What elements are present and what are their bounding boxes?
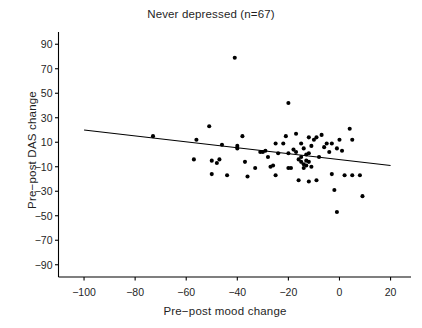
x-tick-label-2: −60 (177, 286, 195, 298)
y-tick-label-3: 30 (14, 112, 53, 124)
data-point (337, 138, 341, 142)
data-point (350, 138, 354, 142)
y-tick-label-5: −10 (14, 161, 53, 173)
data-point (263, 149, 267, 153)
y-tick-label-1: 70 (14, 63, 53, 75)
data-point (322, 145, 326, 149)
data-point (276, 151, 280, 155)
scatter-plot-figure: Never depressed (n=67) Pre−post DAS chan… (0, 0, 422, 328)
data-point (294, 132, 298, 136)
data-point (343, 173, 347, 177)
data-point (299, 141, 303, 145)
data-point (294, 150, 298, 154)
data-point (210, 159, 214, 163)
data-point (317, 155, 321, 159)
data-point (340, 149, 344, 153)
data-point (332, 188, 336, 192)
data-point (217, 157, 221, 161)
data-point (299, 155, 303, 159)
data-point (266, 155, 270, 159)
data-point (320, 133, 324, 137)
data-point (307, 160, 311, 164)
data-point (309, 165, 313, 169)
data-point (358, 173, 362, 177)
data-point (297, 178, 301, 182)
data-point (327, 150, 331, 154)
data-point (360, 194, 364, 198)
data-point (302, 146, 306, 150)
data-point (307, 135, 311, 139)
x-tick-label-6: 20 (385, 286, 397, 298)
data-point (281, 141, 285, 145)
data-point (192, 157, 196, 161)
data-point (307, 151, 311, 155)
plot-canvas (0, 0, 422, 328)
axis-ticks (55, 44, 391, 280)
data-point (286, 101, 290, 105)
data-point (309, 144, 313, 148)
data-point (235, 144, 239, 148)
data-point (233, 56, 237, 60)
data-point (289, 166, 293, 170)
data-point (286, 151, 290, 155)
data-point (314, 178, 318, 182)
data-point (335, 210, 339, 214)
data-point (314, 135, 318, 139)
data-point (274, 141, 278, 145)
y-tick-label-4: 10 (14, 136, 53, 148)
data-point (151, 134, 155, 138)
data-point (325, 141, 329, 145)
data-point (245, 175, 249, 179)
y-tick-label-7: −50 (14, 210, 53, 222)
data-point (348, 127, 352, 131)
data-point (271, 163, 275, 167)
y-tick-label-2: 50 (14, 87, 53, 99)
data-point (335, 146, 339, 150)
x-tick-label-5: 0 (337, 286, 343, 298)
data-point (220, 143, 224, 147)
data-point (240, 134, 244, 138)
data-point (350, 173, 354, 177)
x-tick-label-0: −100 (72, 286, 96, 298)
data-point (253, 166, 257, 170)
y-tick-label-8: −70 (14, 234, 53, 246)
y-tick-label-9: −90 (14, 259, 53, 271)
data-point (304, 163, 308, 167)
data-point (207, 124, 211, 128)
data-point (210, 172, 214, 176)
data-point (243, 160, 247, 164)
y-tick-label-0: 90 (14, 38, 53, 50)
x-tick-label-3: −40 (228, 286, 246, 298)
data-point (194, 138, 198, 142)
data-point (330, 141, 334, 145)
x-tick-label-1: −80 (126, 286, 144, 298)
y-tick-label-6: −30 (14, 185, 53, 197)
data-point (307, 179, 311, 183)
x-tick-label-4: −20 (279, 286, 297, 298)
data-point (215, 161, 219, 165)
data-point (274, 173, 278, 177)
axes (59, 32, 412, 277)
data-point (330, 172, 334, 176)
data-points (151, 56, 365, 214)
data-point (225, 173, 229, 177)
data-point (284, 134, 288, 138)
